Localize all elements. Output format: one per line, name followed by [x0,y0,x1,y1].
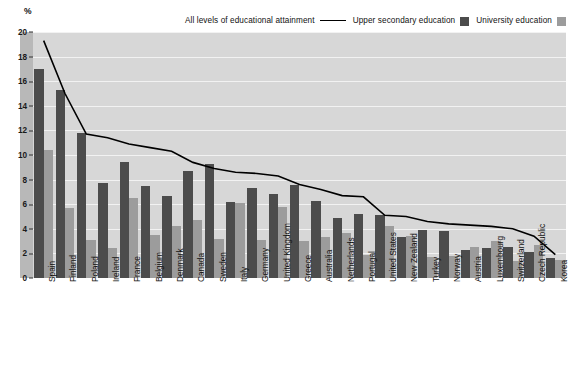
x-axis-label: Italy [225,280,246,380]
y-axis-tick-2: 2 [22,249,33,258]
x-axis-label: Australia [310,280,331,380]
legend-item-upper-secondary: Upper secondary education [353,17,470,26]
x-axis-label-text: Belgium [154,252,164,282]
y-axis-tick-20: 20 [18,28,33,37]
y-axis-tick-18: 18 [18,52,33,61]
legend-label-upper-secondary: Upper secondary education [353,17,456,25]
x-axis-label: Switzerland [502,280,523,380]
y-axis-tick-label: 2 [22,249,27,258]
x-axis-label: Sweden [204,280,225,380]
y-axis-tick-label: 0 [22,274,27,283]
x-axis-label: Austria [459,280,480,380]
x-axis-label: Korea [545,280,566,380]
x-axis-label: Poland [76,280,97,380]
x-axis-label: Spain [33,280,54,380]
x-axis-label-text: Germany [260,248,270,282]
y-axis-tick-12: 12 [18,126,33,135]
y-axis-tick-8: 8 [22,175,33,184]
x-axis-label: Canada [182,280,203,380]
x-axis-label: Belgium [140,280,161,380]
legend-swatch-upper-secondary-icon [460,17,469,26]
x-axis-label-text: Australia [324,250,334,282]
x-axis-label-text: Denmark [175,248,185,282]
line-all-levels [44,41,556,255]
legend-label-all-levels: All levels of educational attainment [185,17,315,25]
x-axis-label-text: Netherlands [346,237,356,282]
x-axis-label-text: Sweden [218,252,228,282]
y-axis-unit-label: % [24,6,32,16]
x-axis-label: Finland [54,280,75,380]
x-axis-labels: SpainFinlandPolandIrelandFranceBelgiumDe… [33,280,566,380]
x-axis-label-text: United Kingdom [282,223,292,282]
y-axis-tick-label: 12 [18,126,27,135]
x-axis-label: Czech Republic [523,280,544,380]
x-axis-label-text: Poland [90,256,100,282]
legend-item-university: University education [476,17,566,26]
x-axis-label: Greece [289,280,310,380]
x-axis-label: New Zealand [395,280,416,380]
x-axis-label: Germany [246,280,267,380]
x-axis-label-text: France [132,256,142,282]
x-axis-label-text: Portugal [367,251,377,282]
x-axis-label-text: Ireland [111,257,121,282]
y-axis-tick-6: 6 [22,200,33,209]
x-axis-label: United States [374,280,395,380]
y-axis-tick-label: 6 [22,200,27,209]
x-axis-label: Turkey [417,280,438,380]
x-axis-label-text: Austria [473,256,483,282]
legend-swatch-university-icon [557,17,566,26]
x-axis-label: Netherlands [331,280,352,380]
x-axis-label-text: Luxembourg [495,236,505,282]
y-axis-tick-4: 4 [22,224,33,233]
x-axis-label-text: Greece [303,255,313,282]
y-axis-tick-label: 8 [22,175,27,184]
x-axis-label-text: Czech Republic [537,224,547,282]
legend-label-university: University education [476,17,552,25]
x-axis-label: United Kingdom [267,280,288,380]
all-levels-line-series [33,32,566,278]
y-axis-tick-label: 20 [18,28,27,37]
y-axis-tick-14: 14 [18,101,33,110]
y-axis-ticks: 02468101214161820 [0,32,33,278]
x-axis-label-text: Canada [196,253,206,282]
y-axis-tick-label: 14 [18,101,27,110]
x-axis-label-text: Switzerland [516,239,526,282]
y-axis-tick-16: 16 [18,77,33,86]
y-axis-tick-label: 16 [18,77,27,86]
x-axis-label-text: New Zealand [409,233,419,282]
x-axis-label: Norway [438,280,459,380]
x-axis-label-text: Korea [559,260,569,282]
y-axis-tick-10: 10 [18,151,33,160]
x-axis-label-text: Turkey [431,257,441,282]
x-axis-label: Luxembourg [481,280,502,380]
x-axis-label: Portugal [353,280,374,380]
x-axis-label: France [118,280,139,380]
chart-root: % All levels of educational attainment U… [0,0,570,385]
x-axis-label: Ireland [97,280,118,380]
x-axis-label-text: Norway [452,254,462,282]
x-axis-label-text: United States [388,232,398,282]
y-axis-tick-label: 18 [18,52,27,61]
x-axis-label: Denmark [161,280,182,380]
legend-item-all-levels: All levels of educational attainment [185,17,346,25]
plot-area [33,32,566,278]
y-axis-tick-label: 4 [22,224,27,233]
y-axis-tick-label: 10 [18,151,27,160]
y-axis-tick-0: 0 [22,274,33,283]
legend-line-marker-icon [320,20,346,21]
chart-legend: All levels of educational attainment Upp… [170,14,566,28]
x-axis-label-text: Spain [47,261,57,282]
x-axis-label-text: Finland [68,255,78,282]
